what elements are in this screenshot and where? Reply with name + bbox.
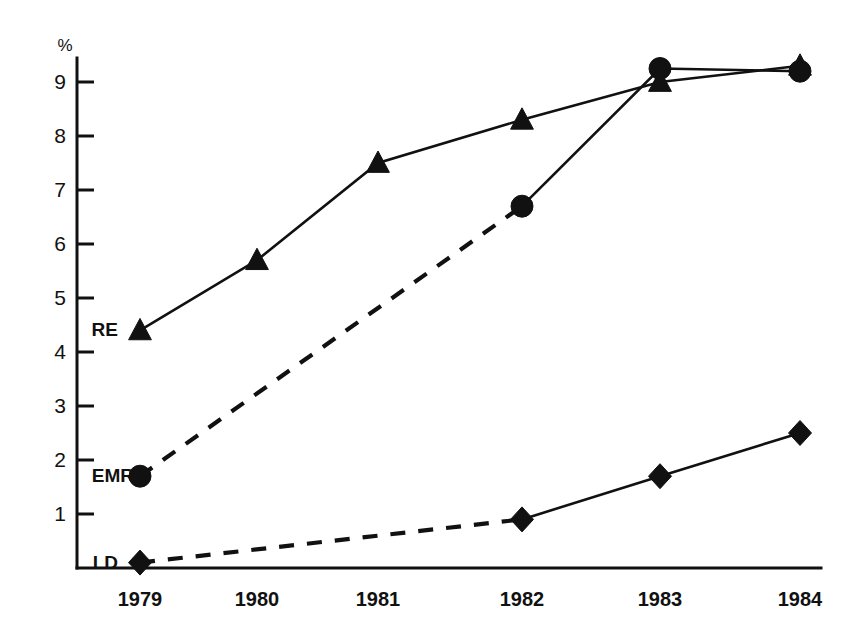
series-markers (129, 54, 812, 575)
series-lines (140, 66, 800, 563)
y-tick-label-6: 6 (54, 232, 66, 255)
y-axis-ticks (77, 82, 94, 514)
series-label-RE: RE (92, 319, 118, 340)
marker-LD-1979 (129, 550, 152, 575)
series-EMR-line-dashed (140, 206, 522, 476)
series-label-EMR: EMR (92, 465, 135, 486)
marker-LD-1984 (789, 421, 812, 446)
y-tick-label-8: 8 (54, 124, 66, 147)
y-tick-label-1: 1 (54, 502, 66, 525)
y-tick-label-7: 7 (54, 178, 66, 201)
x-tick-label-1982: 1982 (500, 588, 545, 610)
series-LD-line-dashed (140, 519, 522, 562)
y-tick-label-2: 2 (54, 448, 66, 471)
x-tick-label-1980: 1980 (235, 588, 280, 610)
marker-EMR-1984 (789, 60, 811, 82)
marker-RE-1980 (246, 248, 269, 269)
marker-EMR-1982 (511, 195, 533, 217)
x-axis-tick-labels: 197919801981198219831984 (118, 588, 823, 610)
x-tick-label-1983: 1983 (638, 588, 683, 610)
y-axis-unit-label-text: % (57, 36, 72, 55)
series-label-LD: LD (93, 552, 118, 573)
x-tick-label-1984: 1984 (778, 588, 823, 610)
series-inline-labels: REEMRLD (92, 319, 135, 572)
marker-RE-1979 (129, 318, 152, 339)
chart-axes (77, 58, 821, 568)
y-tick-label-9: 9 (54, 70, 66, 93)
y-axis-unit-label: % (57, 36, 72, 55)
y-tick-label-3: 3 (54, 394, 66, 417)
y-tick-label-5: 5 (54, 286, 66, 309)
y-axis-tick-labels: 123456789 (54, 70, 66, 525)
y-tick-label-4: 4 (54, 340, 66, 363)
line-chart-canvas: 123456789 197919801981198219831984 % REE… (0, 0, 859, 633)
chart-figure: 123456789 197919801981198219831984 % REE… (0, 0, 859, 633)
marker-LD-1982 (511, 507, 534, 532)
x-tick-label-1979: 1979 (118, 588, 163, 610)
marker-LD-1983 (649, 464, 672, 489)
x-tick-label-1981: 1981 (356, 588, 401, 610)
marker-EMR-1983 (649, 58, 671, 80)
series-RE-line (140, 66, 800, 331)
